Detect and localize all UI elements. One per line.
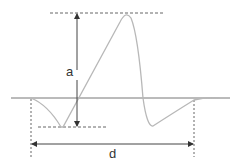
amplitude-label: a — [66, 65, 73, 78]
duration-label: d — [109, 147, 116, 160]
waveform-diagram — [0, 0, 235, 166]
waveform-curve — [31, 15, 220, 127]
